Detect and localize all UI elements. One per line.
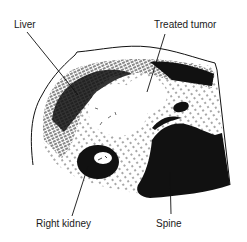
label-treated-tumor: Treated tumor — [154, 20, 216, 30]
liver-leader-line — [27, 32, 78, 95]
label-liver: Liver — [14, 20, 36, 30]
scan-illustration — [0, 0, 247, 242]
label-right-kidney: Right kidney — [36, 219, 91, 229]
label-spine: Spine — [156, 219, 182, 229]
